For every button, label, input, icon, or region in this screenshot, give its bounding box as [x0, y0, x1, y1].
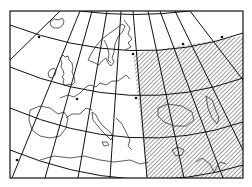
europe-map — [0, 0, 252, 187]
highlighted-region — [133, 36, 243, 178]
map-canvas — [0, 0, 252, 187]
